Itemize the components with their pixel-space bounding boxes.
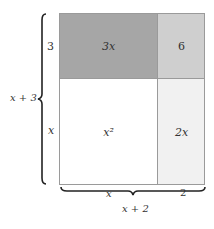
left-bottom-label: x bbox=[48, 124, 54, 137]
bottom-right-label: 2 bbox=[180, 187, 186, 198]
left-total-label: x + 3 bbox=[10, 92, 37, 103]
bottom-left-label: x bbox=[106, 188, 112, 199]
bottom-total-label: x + 2 bbox=[122, 203, 149, 214]
left-top-label: 3 bbox=[47, 40, 54, 53]
area-model-diagram: 3x 6 x² 2x 3 x x + 3 x 2 x + 2 bbox=[0, 0, 214, 229]
left-brace-icon bbox=[38, 14, 46, 184]
